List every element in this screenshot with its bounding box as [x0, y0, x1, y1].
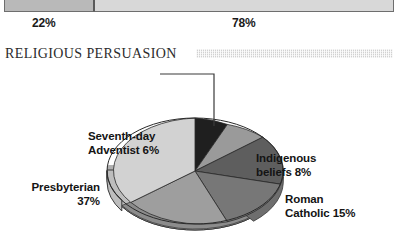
- bar-value-right: 78%: [232, 16, 255, 30]
- infographic-page: 22% 78% RELIGIOUS PERSUASION: [0, 0, 398, 246]
- top-bar-chart-remnant: [0, 0, 398, 12]
- pie-label-roman-catholic: Roman Catholic 15%: [285, 193, 355, 220]
- pie-label-presbyterian: Presbyterian 37%: [8, 181, 100, 208]
- bar-segment-right: [94, 0, 394, 12]
- pie-label-seventh-day-adventist: Seventh-day Adventist 6%: [88, 130, 159, 157]
- bar-value-left: 22%: [32, 16, 55, 30]
- bar-segment-left: [4, 0, 94, 12]
- pie-label-indigenous-beliefs: Indigenous beliefs 8%: [256, 152, 316, 179]
- pie-chart: Seventh-day Adventist 6% Indigenous beli…: [0, 60, 398, 246]
- header-rule-decoration: [196, 49, 393, 58]
